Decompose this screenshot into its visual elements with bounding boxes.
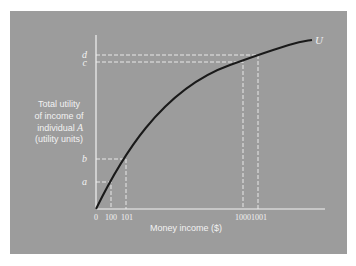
utility-diagram: U d c b a 0 100 101 1000 1001 Money inco… [0,0,356,266]
y-tick-a: a [82,176,87,187]
svg-text:(utility units): (utility units) [35,134,83,144]
y-tick-c: c [83,57,88,68]
svg-text:individual: individual [37,123,75,133]
x-tick-1001: 1001 [251,213,267,222]
x-tick-101: 101 [121,213,133,222]
x-tick-1000: 1000 [235,213,251,222]
x-tick-100: 100 [105,213,117,222]
x-axis-label: Money income ($) [150,223,222,233]
svg-text:Total utility: Total utility [38,99,81,109]
svg-text:of income of: of income of [34,111,84,121]
y-tick-b: b [82,153,87,164]
svg-text:A: A [76,122,84,133]
x-tick-0: 0 [94,213,98,222]
curve-label: U [315,34,324,46]
